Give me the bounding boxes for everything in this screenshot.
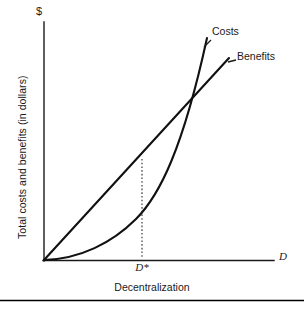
y-axis-currency-symbol: $: [36, 6, 42, 17]
x-axis-variable-symbol: D: [279, 251, 287, 262]
benefits-series-line: [44, 58, 229, 260]
y-axis-label: Total costs and benefits (in dollars): [17, 62, 28, 252]
x-axis-label: Decentralization: [0, 282, 304, 293]
costs-series-curve: [44, 38, 207, 260]
benefits-series-label: Benefits: [237, 51, 275, 62]
dstar-tick-label: D*: [129, 262, 155, 273]
costs-series-label: Costs: [212, 26, 239, 37]
chart-figure: $ Total costs and benefits (in dollars) …: [0, 0, 304, 312]
benefits-label-leader-line: [228, 60, 236, 62]
